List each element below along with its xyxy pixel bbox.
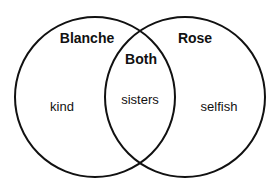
rose-title: Rose: [178, 30, 212, 46]
rose-trait: selfish: [201, 99, 238, 114]
blanche-title: Blanche: [60, 30, 114, 46]
blanche-trait: kind: [50, 99, 74, 114]
both-title: Both: [125, 51, 157, 67]
shared-trait: sisters: [121, 92, 159, 107]
